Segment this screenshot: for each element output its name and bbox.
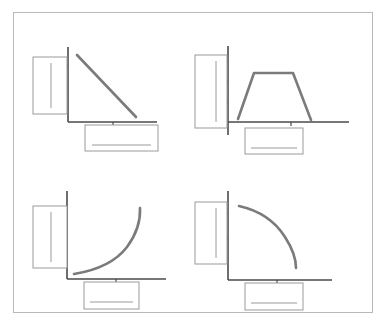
data-curve-trapezoid xyxy=(238,73,311,120)
y-axis-label-box[interactable] xyxy=(33,57,67,114)
chart-svg-bottom-right xyxy=(194,161,368,311)
data-curve-convex-increasing xyxy=(74,208,140,274)
y-axis-label-box[interactable] xyxy=(33,206,67,268)
x-axis-label-box[interactable] xyxy=(245,128,303,154)
chart-svg-top-left xyxy=(16,15,190,165)
figure-frame xyxy=(13,12,373,313)
chart-panel-bottom-left xyxy=(16,161,190,311)
x-axis-label-box[interactable] xyxy=(85,125,158,151)
chart-panel-top-left xyxy=(16,15,190,165)
data-curve-linear-decreasing xyxy=(77,55,136,117)
y-axis-label-box[interactable] xyxy=(195,202,227,264)
chart-svg-top-right xyxy=(194,15,368,165)
x-axis-label-box[interactable] xyxy=(84,282,139,309)
x-axis-label-box[interactable] xyxy=(245,283,303,310)
y-axis-label-box[interactable] xyxy=(195,55,227,128)
chart-panel-top-right xyxy=(194,15,368,165)
chart-panel-bottom-right xyxy=(194,161,368,311)
chart-svg-bottom-left xyxy=(16,161,190,311)
data-curve-concave-decreasing xyxy=(239,206,296,268)
